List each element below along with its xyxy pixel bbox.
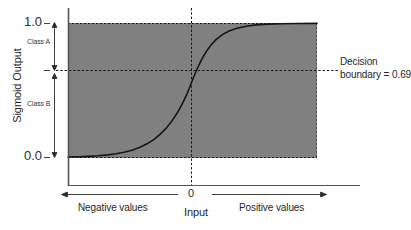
region-label-class-a: Class A <box>27 38 50 45</box>
positive-values-label: Positive values <box>239 203 304 213</box>
region-label-class-b: Class B <box>27 100 50 107</box>
decision-boundary-annotation-line1: Decision <box>340 57 378 67</box>
decision-boundary-annotation-line2: boundary = 0.69 <box>340 70 411 80</box>
negative-values-label: Negative values <box>78 203 148 213</box>
x-axis-tick-label-zero: 0 <box>188 188 194 199</box>
negative-values-arrow <box>62 192 179 197</box>
positive-values-arrow <box>212 192 327 197</box>
plot-area-background <box>68 23 317 158</box>
class-a-range-arrow <box>52 23 57 71</box>
y-axis-title: Sigmoid Output <box>12 36 23 136</box>
class-b-range-arrow <box>52 74 57 158</box>
y-axis-tick-label-top: 1.0 <box>24 15 42 28</box>
y-axis-tick-label-bottom: 0.0 <box>24 149 42 162</box>
x-axis-title: Input <box>184 207 208 218</box>
